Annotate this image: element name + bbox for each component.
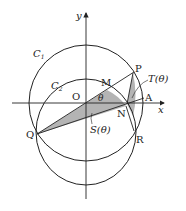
diagram-svg: y x C1 C2 O M N P A Q R θ S(θ) T(θ) bbox=[0, 0, 186, 211]
angle-theta-label: θ bbox=[98, 93, 104, 103]
point-p-label: P bbox=[135, 63, 142, 74]
x-axis-label: x bbox=[158, 104, 164, 115]
point-m-label: M bbox=[101, 77, 111, 88]
point-a-label: A bbox=[144, 92, 153, 103]
point-r-label: R bbox=[136, 134, 144, 145]
region-s-shade bbox=[37, 90, 126, 134]
c2-label: C2 bbox=[51, 80, 63, 92]
region-s-label: S(θ) bbox=[90, 124, 111, 135]
region-t-label: T(θ) bbox=[148, 73, 169, 84]
point-n-label: N bbox=[117, 108, 126, 119]
geometry-figure: y x C1 C2 O M N P A Q R θ S(θ) T(θ) bbox=[0, 0, 186, 211]
point-q-label: Q bbox=[26, 129, 34, 140]
c1-label: C1 bbox=[33, 48, 44, 60]
point-o-label: O bbox=[72, 91, 80, 102]
y-axis-label: y bbox=[75, 10, 82, 21]
